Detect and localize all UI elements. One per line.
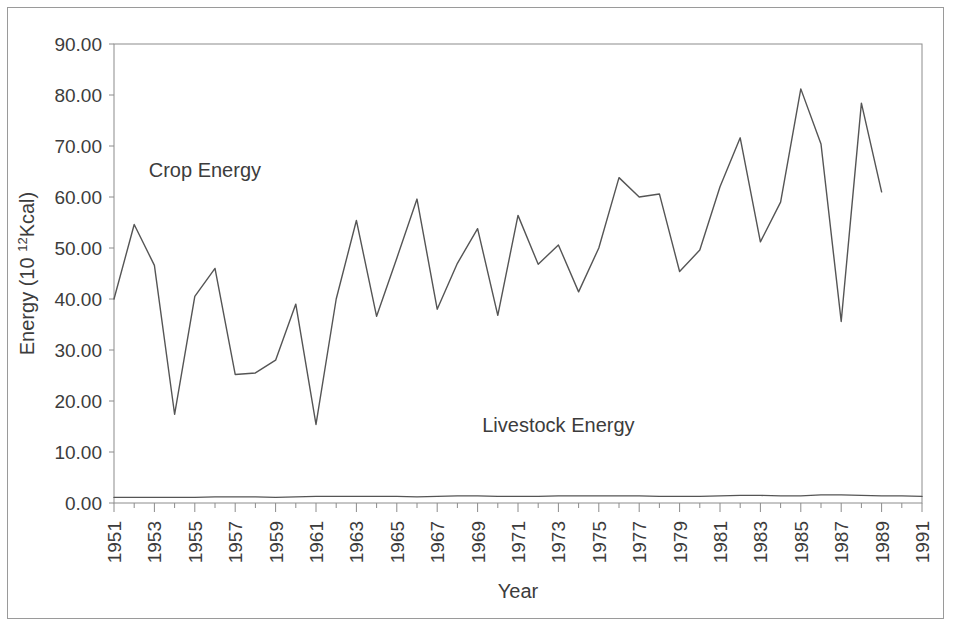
y-tick-label: 60.00 [54, 187, 102, 208]
y-tick-label: 70.00 [54, 136, 102, 157]
crop-energy-line [114, 89, 882, 425]
x-tick-label: 1977 [629, 521, 650, 563]
x-tick-label: 1971 [508, 521, 529, 563]
x-tick-label: 1973 [548, 521, 569, 563]
x-tick-label: 1961 [306, 521, 327, 563]
x-tick-label: 1959 [266, 521, 287, 563]
y-tick-label: 40.00 [54, 289, 102, 310]
x-tick-label: 1989 [872, 521, 893, 563]
x-tick-label: 1951 [104, 521, 125, 563]
x-tick-label: 1981 [710, 521, 731, 563]
chart-figure: 0.0010.0020.0030.0040.0050.0060.0070.008… [0, 0, 953, 629]
x-axis-title: Year [498, 580, 539, 602]
livestock-energy-label: Livestock Energy [482, 414, 634, 436]
x-tick-label: 1967 [427, 521, 448, 563]
y-tick-label: 90.00 [54, 34, 102, 55]
y-tick-label: 50.00 [54, 238, 102, 259]
y-tick-label: 20.00 [54, 391, 102, 412]
x-tick-label: 1953 [144, 521, 165, 563]
y-tick-label: 30.00 [54, 340, 102, 361]
line-chart: 0.0010.0020.0030.0040.0050.0060.0070.008… [0, 0, 953, 629]
x-tick-label: 1987 [831, 521, 852, 563]
livestock-energy-line [114, 495, 922, 498]
x-tick-label: 1969 [468, 521, 489, 563]
x-tick-label: 1985 [791, 521, 812, 563]
x-tick-label: 1983 [750, 521, 771, 563]
crop-energy-label: Crop Energy [149, 159, 261, 181]
x-tick-label: 1991 [912, 521, 933, 563]
x-tick-label: 1965 [387, 521, 408, 563]
y-tick-label: 10.00 [54, 442, 102, 463]
y-tick-label: 0.00 [65, 493, 102, 514]
x-tick-label: 1963 [346, 521, 367, 563]
x-tick-label: 1957 [225, 521, 246, 563]
x-tick-label: 1975 [589, 521, 610, 563]
y-tick-label: 80.00 [54, 85, 102, 106]
y-axis-title: Energy (10 12Kcal) [15, 192, 39, 355]
x-tick-label: 1979 [670, 521, 691, 563]
x-tick-label: 1955 [185, 521, 206, 563]
svg-text:Energy (10 12Kcal): Energy (10 12Kcal) [15, 192, 39, 355]
